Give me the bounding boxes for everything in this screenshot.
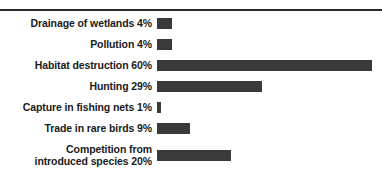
bar-track-hunting	[157, 76, 382, 97]
chart-row-habitat-destruction: Habitat destruction 60%	[0, 55, 382, 76]
bar-drainage-of-wetlands	[157, 18, 172, 29]
bar-trade-in-rare-birds	[157, 123, 190, 134]
bar-track-pollution	[157, 34, 382, 55]
bar-track-competition-from-introduced-species	[157, 139, 382, 171]
bar-label-drainage-of-wetlands: Drainage of wetlands 4%	[0, 17, 157, 30]
bar-label-competition-from-introduced-species: Competition from introduced species 20%	[0, 143, 157, 168]
bar-track-habitat-destruction	[157, 55, 382, 76]
chart-row-trade-in-rare-birds: Trade in rare birds 9%	[0, 118, 382, 139]
bar-label-capture-in-fishing-nets: Capture in fishing nets 1%	[0, 101, 157, 114]
bar-chart: Drainage of wetlands 4% Pollution 4% Hab…	[0, 0, 382, 172]
bar-label-habitat-destruction: Habitat destruction 60%	[0, 59, 157, 72]
bar-track-trade-in-rare-birds	[157, 118, 382, 139]
bar-label-hunting: Hunting 29%	[0, 80, 157, 93]
chart-row-competition-from-introduced-species: Competition from introduced species 20%	[0, 139, 382, 171]
bar-hunting	[157, 81, 262, 92]
chart-row-hunting: Hunting 29%	[0, 76, 382, 97]
bar-track-capture-in-fishing-nets	[157, 97, 382, 118]
bar-pollution	[157, 39, 172, 50]
chart-rows: Drainage of wetlands 4% Pollution 4% Hab…	[0, 13, 382, 171]
chart-top-divider	[0, 9, 382, 11]
bar-habitat-destruction	[157, 60, 372, 71]
bar-track-drainage-of-wetlands	[157, 13, 382, 34]
bar-label-pollution: Pollution 4%	[0, 38, 157, 51]
bar-capture-in-fishing-nets	[157, 102, 161, 113]
chart-row-pollution: Pollution 4%	[0, 34, 382, 55]
bar-label-trade-in-rare-birds: Trade in rare birds 9%	[0, 122, 157, 135]
bar-competition-from-introduced-species	[157, 150, 231, 161]
chart-row-capture-in-fishing-nets: Capture in fishing nets 1%	[0, 97, 382, 118]
chart-row-drainage-of-wetlands: Drainage of wetlands 4%	[0, 13, 382, 34]
